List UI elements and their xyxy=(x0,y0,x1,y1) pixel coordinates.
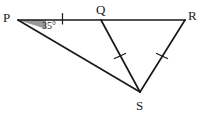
vertex-label-q: Q xyxy=(96,3,105,16)
geometry-canvas xyxy=(0,0,208,117)
angle-label-p: 35° xyxy=(42,21,56,31)
vertex-label-p: P xyxy=(3,11,10,24)
vertex-label-r: R xyxy=(188,9,197,22)
vertex-label-s: S xyxy=(136,99,143,112)
segment-ps xyxy=(18,20,140,92)
geometry-figure: P Q R S 35° xyxy=(0,0,208,117)
